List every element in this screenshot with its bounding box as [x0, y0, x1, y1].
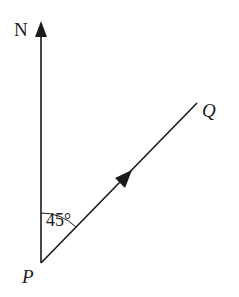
- angle-label: 45°: [46, 210, 71, 230]
- north-arrowhead-icon: [35, 21, 47, 37]
- pq-line: [41, 103, 197, 263]
- point-q-label: Q: [202, 100, 216, 121]
- bearing-diagram: N 45° P Q: [0, 0, 239, 297]
- point-p-label: P: [21, 266, 34, 287]
- north-label: N: [14, 19, 28, 40]
